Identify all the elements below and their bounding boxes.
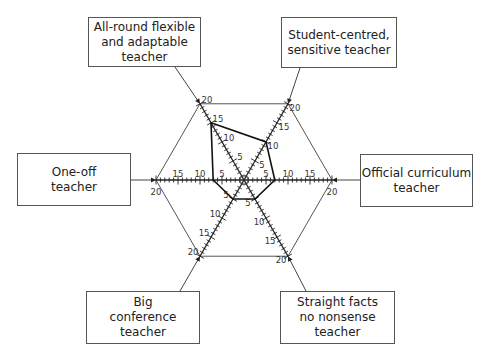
connector-line xyxy=(288,256,306,291)
connector-line xyxy=(288,68,300,104)
tick-label: 15 xyxy=(199,228,210,238)
tick-label: 10 xyxy=(268,141,279,151)
connector-line xyxy=(180,256,200,291)
tick-label: 20 xyxy=(327,187,338,197)
radar-chart: 5101520510152051015205101520510152051015… xyxy=(0,0,489,361)
tick-label: 5 xyxy=(219,169,224,179)
profile-polygon xyxy=(211,123,275,199)
tick-label: 15 xyxy=(213,114,224,124)
tick-label: 20 xyxy=(202,95,213,105)
tick-label: 20 xyxy=(188,247,199,257)
tick-label: 10 xyxy=(283,169,294,179)
tick-label: 10 xyxy=(224,133,235,143)
arrowhead-icon xyxy=(332,178,337,183)
connector-line xyxy=(175,67,200,104)
tick-label: 10 xyxy=(195,169,206,179)
tick-label: 15 xyxy=(265,236,276,246)
tick-label: 20 xyxy=(276,255,287,265)
arrowhead-icon xyxy=(151,178,156,183)
tick-label: 15 xyxy=(279,122,290,132)
arrowhead-icon xyxy=(195,98,200,104)
tick-label: 10 xyxy=(254,217,265,227)
tick-label: 5 xyxy=(237,152,242,162)
tick-label: 15 xyxy=(305,169,316,179)
tick-label: 20 xyxy=(290,103,301,113)
tick-label: 20 xyxy=(151,187,162,197)
tick-label: 10 xyxy=(210,209,221,219)
tick-label: 5 xyxy=(263,169,268,179)
tick-label: 15 xyxy=(173,169,184,179)
